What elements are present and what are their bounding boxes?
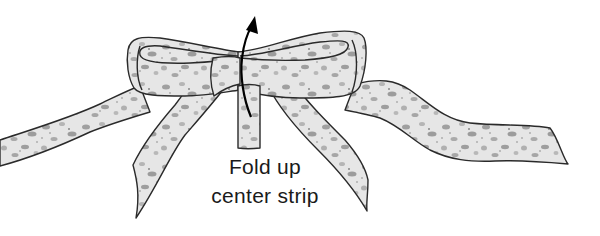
caption: Fold up center strip <box>200 152 330 210</box>
left-streamer <box>0 86 150 166</box>
caption-line-1: Fold up <box>200 152 330 181</box>
right-streamer <box>345 81 568 164</box>
center-strip <box>238 85 260 149</box>
caption-line-2: center strip <box>200 181 330 210</box>
